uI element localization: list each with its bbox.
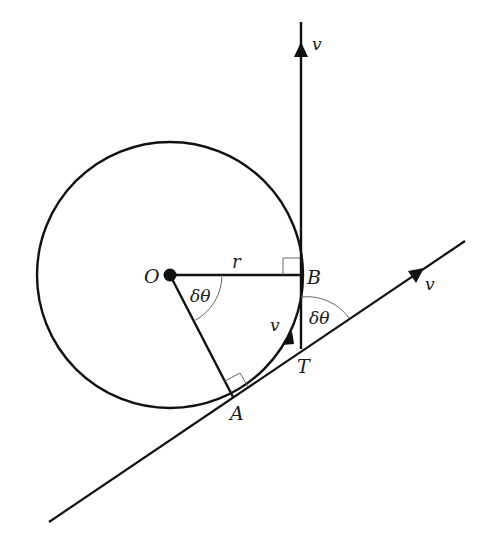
label-v-arc: v bbox=[270, 315, 280, 335]
right-angle-mark-B bbox=[283, 258, 300, 275]
label-angle-O: δθ bbox=[190, 286, 210, 306]
label-v-tangent: v bbox=[425, 274, 435, 294]
label-A: A bbox=[228, 402, 244, 424]
arrow-tangent-icon bbox=[408, 268, 424, 283]
arrow-up-icon bbox=[294, 42, 308, 57]
label-r: r bbox=[232, 251, 242, 272]
label-v-vertical: v bbox=[312, 34, 322, 54]
centre-dot bbox=[164, 269, 177, 282]
arrow-arc-icon bbox=[282, 331, 294, 345]
label-O: O bbox=[144, 265, 160, 287]
label-B: B bbox=[306, 266, 321, 288]
label-T: T bbox=[297, 355, 311, 377]
label-angle-T: δθ bbox=[309, 308, 329, 328]
oblique-tangent-line bbox=[49, 241, 465, 522]
diagram-canvas: O r B A T δθ δθ v v v bbox=[0, 0, 501, 548]
